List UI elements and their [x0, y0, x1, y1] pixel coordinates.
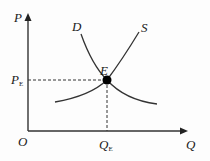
qe-label-sub: E [108, 145, 112, 153]
y-axis-arrow-icon [25, 13, 32, 21]
origin-label: O [18, 135, 27, 148]
supply-demand-diagram: P Q O D S E PE QE [0, 0, 210, 161]
demand-label: D [72, 20, 81, 33]
supply-label: S [141, 21, 148, 34]
qe-label: QE [99, 138, 113, 153]
x-axis-arrow-icon [180, 128, 188, 135]
x-axis-label: Q [186, 138, 195, 151]
pe-label: PE [11, 73, 23, 88]
pe-label-sub: E [19, 80, 23, 88]
equilibrium-label: E [100, 64, 108, 77]
qe-label-main: Q [99, 137, 108, 152]
y-axis-label: P [14, 11, 22, 24]
pe-label-main: P [11, 72, 19, 87]
demand-curve [81, 34, 157, 104]
